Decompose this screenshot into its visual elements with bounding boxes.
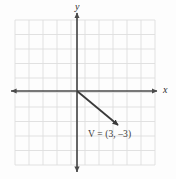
x-axis-left-arrowhead [11, 88, 17, 93]
x-axis-label: x [163, 85, 167, 95]
vector-v [77, 91, 118, 125]
coordinate-plane-figure: y x V = (3, –3) [0, 0, 176, 179]
vector-label: V = (3, –3) [88, 130, 131, 140]
y-axis-label: y [75, 2, 79, 12]
y-axis-bottom-arrowhead [74, 166, 79, 172]
plot-canvas [0, 0, 176, 179]
grid-lines [15, 20, 155, 165]
